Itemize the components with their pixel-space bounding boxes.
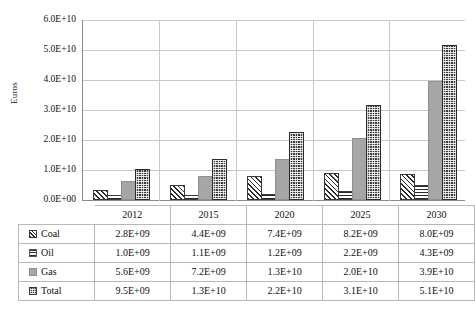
table-col-header-2015: 2015	[171, 206, 247, 225]
table-col-header-2020: 2020	[247, 206, 323, 225]
legend-label-gas: Gas	[19, 263, 95, 282]
bar-group-2025	[313, 20, 390, 200]
cell-gas-2020: 1.3E+10	[247, 263, 323, 282]
bar-gas-2020	[275, 159, 290, 200]
legend-text-oil: Oil	[41, 247, 54, 258]
y-tick-label-5e10: 5.0E+10	[18, 45, 76, 55]
cell-oil-2012: 1.0E+09	[95, 244, 171, 263]
y-tick-label-2e10: 2.0E+10	[18, 135, 76, 145]
legend-label-oil: Oil	[19, 244, 95, 263]
cell-total-2020: 2.2E+10	[247, 282, 323, 301]
cell-gas-2012: 5.6E+09	[95, 263, 171, 282]
bar-coal-2030	[400, 174, 415, 200]
cell-oil-2025: 2.2E+09	[323, 244, 399, 263]
bar-group-2020	[236, 20, 313, 200]
table-corner-cell	[19, 206, 95, 225]
y-tick-label-6e10: 6.0E+10	[18, 15, 76, 25]
bar-total-2020	[289, 132, 304, 200]
cell-coal-2012: 2.8E+09	[95, 225, 171, 244]
legend-label-total: Total	[19, 282, 95, 301]
figure-chart-with-data-table: Euros 6.0E+10 5.0E+10 4.0E+10 3.0E+10 2.…	[0, 0, 475, 318]
bar-gas-2012	[121, 181, 136, 200]
y-tick-label-4e10: 4.0E+10	[18, 75, 76, 85]
legend-text-gas: Gas	[41, 266, 57, 277]
bar-total-2025	[366, 105, 381, 200]
cell-total-2015: 1.3E+10	[171, 282, 247, 301]
cell-total-2030: 5.1E+10	[399, 282, 475, 301]
legend-text-coal: Coal	[41, 228, 60, 239]
bar-coal-2025	[324, 173, 339, 200]
table-col-header-2012: 2012	[95, 206, 171, 225]
bar-total-2015	[212, 159, 227, 200]
plot-area: Euros 6.0E+10 5.0E+10 4.0E+10 3.0E+10 2.…	[0, 0, 475, 205]
table-row-gas: Gas 5.6E+09 7.2E+09 1.3E+10 2.0E+10 3.9E…	[19, 263, 475, 282]
cell-gas-2030: 3.9E+10	[399, 263, 475, 282]
y-tick-label-0: 0.0E+00	[18, 195, 76, 205]
cell-oil-2020: 1.2E+09	[247, 244, 323, 263]
gas-swatch-icon	[29, 268, 37, 276]
cell-gas-2015: 7.2E+09	[171, 263, 247, 282]
cell-oil-2015: 1.1E+09	[171, 244, 247, 263]
bar-group-2030	[389, 20, 466, 200]
coal-swatch-icon	[29, 230, 37, 238]
x-axis-line	[82, 200, 465, 201]
cell-total-2012: 9.5E+09	[95, 282, 171, 301]
bar-gas-2015	[198, 176, 213, 200]
bar-total-2012	[135, 169, 150, 200]
cell-total-2025: 3.1E+10	[323, 282, 399, 301]
table-header-row: 2012 2015 2020 2025 2030	[19, 206, 475, 225]
data-table: 2012 2015 2020 2025 2030 Coal 2.8E+09 4.…	[18, 205, 475, 301]
bar-total-2030	[442, 45, 457, 200]
bar-coal-2015	[170, 185, 185, 200]
table-col-header-2030: 2030	[399, 206, 475, 225]
table-row-total: Total 9.5E+09 1.3E+10 2.2E+10 3.1E+10 5.…	[19, 282, 475, 301]
cell-coal-2015: 4.4E+09	[171, 225, 247, 244]
cell-coal-2030: 8.0E+09	[399, 225, 475, 244]
legend-text-total: Total	[41, 285, 61, 296]
table-col-header-2025: 2025	[323, 206, 399, 225]
oil-swatch-icon	[29, 249, 37, 257]
bar-oil-2012	[107, 195, 122, 200]
table-row-coal: Coal 2.8E+09 4.4E+09 7.4E+09 8.2E+09 8.0…	[19, 225, 475, 244]
bar-group-2012	[82, 20, 159, 200]
bar-coal-2020	[247, 176, 262, 200]
bar-gas-2030	[428, 81, 443, 200]
bar-oil-2015	[184, 195, 199, 200]
cell-gas-2025: 2.0E+10	[323, 263, 399, 282]
bar-oil-2030	[414, 185, 429, 200]
bar-gas-2025	[352, 138, 367, 200]
bar-coal-2012	[93, 190, 108, 200]
bar-group-2015	[159, 20, 236, 200]
bar-oil-2020	[261, 194, 276, 200]
cell-coal-2025: 8.2E+09	[323, 225, 399, 244]
bar-oil-2025	[338, 191, 353, 200]
cell-coal-2020: 7.4E+09	[247, 225, 323, 244]
figure-caption	[6, 306, 206, 316]
y-tick-label-3e10: 3.0E+10	[18, 105, 76, 115]
cell-oil-2030: 4.3E+09	[399, 244, 475, 263]
table-row-oil: Oil 1.0E+09 1.1E+09 1.2E+09 2.2E+09 4.3E…	[19, 244, 475, 263]
legend-label-coal: Coal	[19, 225, 95, 244]
y-tick-label-1e10: 1.0E+10	[18, 165, 76, 175]
total-swatch-icon	[29, 287, 37, 295]
